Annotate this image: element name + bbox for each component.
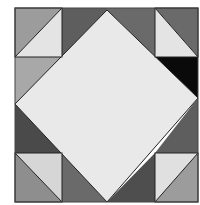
quilt-block	[0, 0, 200, 205]
